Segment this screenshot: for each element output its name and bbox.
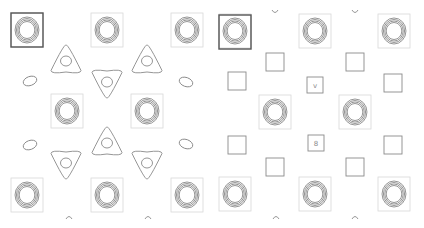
right-ring-2-ring-3 xyxy=(386,23,402,40)
right-square-7 xyxy=(346,158,364,176)
left-arc-0 xyxy=(66,217,72,220)
right-arc-bottom-1 xyxy=(352,217,358,220)
right-square-6 xyxy=(266,158,284,176)
right-square-2 xyxy=(228,72,246,90)
left-ring-1-ring-2 xyxy=(98,20,116,40)
left-tri-down-1-inner xyxy=(61,158,72,168)
left-tri-down-2-inner xyxy=(142,158,153,168)
right-arc-top-1 xyxy=(352,10,358,13)
left-ring-3-ring-3 xyxy=(59,103,75,120)
left-tri-down-0-inner xyxy=(102,77,113,87)
left-ring-5-ring-2 xyxy=(18,185,36,205)
right-ring-6-ring-3 xyxy=(307,186,323,203)
right-arc-top-0 xyxy=(272,10,278,13)
right-ring-7-ring-2 xyxy=(385,184,403,204)
right-ring-3-ring-2 xyxy=(266,102,284,122)
right-ring-0-ring-2 xyxy=(226,21,244,41)
left-ring-6-ring-2 xyxy=(98,185,116,205)
right-ring-7-ring-0 xyxy=(382,181,406,207)
left-tri-up-mid-outer xyxy=(92,127,122,155)
left-ring-4-ring-3 xyxy=(139,103,155,120)
figure: v8 Two side-by-side contour lattice pane… xyxy=(0,0,424,228)
left-tri-up-1-outer xyxy=(132,45,162,73)
right-ring-1-ring-0 xyxy=(303,18,327,44)
left-ring-5-ring-3 xyxy=(19,187,35,204)
left-ring-4-ring-2 xyxy=(138,101,156,121)
right-square-3 xyxy=(384,74,402,92)
left-blob-0 xyxy=(22,74,38,87)
left-ring-7-ring-2 xyxy=(178,185,196,205)
left-ring-2-ring-2 xyxy=(178,20,196,40)
left-ring-3-ring-0 xyxy=(55,98,79,124)
left-tri-up-1-inner xyxy=(142,56,153,66)
left-ring-7-ring-3 xyxy=(179,187,195,204)
right-arc-bottom-0 xyxy=(273,217,279,220)
left-tri-up-0-outer xyxy=(51,45,81,73)
right-small-glyph-0: v xyxy=(313,82,317,90)
right-ring-4-ring-3 xyxy=(347,104,363,121)
right-ring-1-ring-2 xyxy=(306,21,324,41)
left-tri-down-2-outer xyxy=(132,151,162,179)
left-ring-3-ring-2 xyxy=(58,101,76,121)
right-ring-5-ring-2 xyxy=(226,184,244,204)
right-ring-0-ring-3 xyxy=(227,23,243,40)
left-tri-up-mid-inner xyxy=(102,138,113,148)
left-blob-3 xyxy=(178,137,194,150)
left-tri-up-0-inner xyxy=(61,56,72,66)
right-ring-4-ring-0 xyxy=(343,99,367,125)
right-ring-6-ring-2 xyxy=(306,184,324,204)
left-ring-4-ring-0 xyxy=(135,98,159,124)
left-blob-1 xyxy=(178,75,194,88)
right-square-1 xyxy=(346,53,364,71)
right-ring-2-ring-2 xyxy=(385,21,403,41)
right-ring-0-ring-0 xyxy=(223,18,247,44)
right-ring-4-ring-2 xyxy=(346,102,364,122)
right-ring-3-ring-3 xyxy=(267,104,283,121)
contour-figure: v8 xyxy=(0,0,424,228)
right-ring-1-ring-3 xyxy=(307,23,323,40)
right-ring-5-ring-0 xyxy=(223,181,247,207)
right-square-0 xyxy=(266,53,284,71)
left-ring-5-ring-0 xyxy=(15,182,39,208)
left-ring-2-ring-0 xyxy=(175,17,199,43)
right-ring-5-ring-3 xyxy=(227,186,243,203)
left-ring-0-ring-2 xyxy=(18,20,36,40)
left-blob-2 xyxy=(22,138,38,151)
left-ring-2-ring-3 xyxy=(179,22,195,39)
right-ring-7-ring-3 xyxy=(386,186,402,203)
left-ring-0-ring-3 xyxy=(19,22,35,39)
left-ring-6-ring-3 xyxy=(99,187,115,204)
left-ring-1-ring-3 xyxy=(99,22,115,39)
left-ring-0-ring-0 xyxy=(15,17,39,43)
left-tri-down-1-outer xyxy=(51,151,81,179)
left-ring-6-ring-0 xyxy=(95,182,119,208)
right-small-glyph-1: 8 xyxy=(314,140,318,148)
right-square-4 xyxy=(228,136,246,154)
left-ring-1-ring-0 xyxy=(95,17,119,43)
right-square-5 xyxy=(384,136,402,154)
left-ring-7-ring-0 xyxy=(175,182,199,208)
left-tri-down-0-outer xyxy=(92,70,122,98)
right-ring-6-ring-0 xyxy=(303,181,327,207)
right-ring-2-ring-0 xyxy=(382,18,406,44)
left-arc-1 xyxy=(145,217,151,220)
right-ring-3-ring-0 xyxy=(263,99,287,125)
